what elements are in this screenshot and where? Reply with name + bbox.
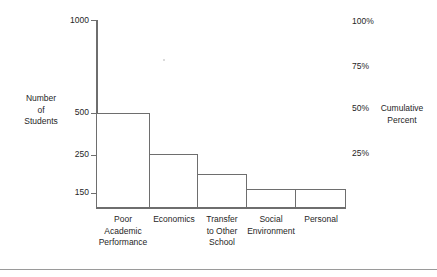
cumulative-title-line: Percent (369, 115, 435, 127)
y2tick-label-25pct: 25% (352, 148, 386, 158)
bar-transfer-to-other-school (197, 174, 247, 208)
category-label-personal: Personal (292, 214, 350, 226)
ytick-label-1000: 1000 (59, 15, 89, 25)
ytick-label-250: 250 (59, 149, 89, 159)
bar-poor-academic-performance (96, 113, 150, 208)
y2tick-label-100pct: 100% (352, 16, 386, 26)
y-axis-title-line: Students (8, 116, 74, 128)
cumulative-percent-axis-title: Cumulative Percent (369, 103, 435, 126)
ytick-label-150: 150 (59, 187, 89, 197)
cumulative-title-line: Cumulative (369, 103, 435, 115)
scan-speck (163, 59, 165, 61)
category-line: Personal (292, 214, 350, 226)
y-axis-title: Number of Students (8, 93, 74, 128)
y-axis-title-line: Number (8, 93, 74, 105)
category-line: School (188, 237, 256, 249)
pareto-chart: 1000 500 250 150 100% 75% 50% 25% Poor A… (0, 0, 437, 277)
y2tick-label-75pct: 75% (352, 61, 386, 71)
bar-personal (295, 189, 346, 208)
tick-mark-1000 (91, 20, 97, 21)
y-axis-title-line: of (8, 105, 74, 117)
bar-economics (149, 154, 198, 208)
category-line: Environment (232, 226, 310, 238)
page-footer-rule (0, 269, 437, 270)
bar-social-environment (246, 189, 296, 208)
category-line: Academic (85, 226, 161, 238)
category-line: Performance (85, 237, 161, 249)
